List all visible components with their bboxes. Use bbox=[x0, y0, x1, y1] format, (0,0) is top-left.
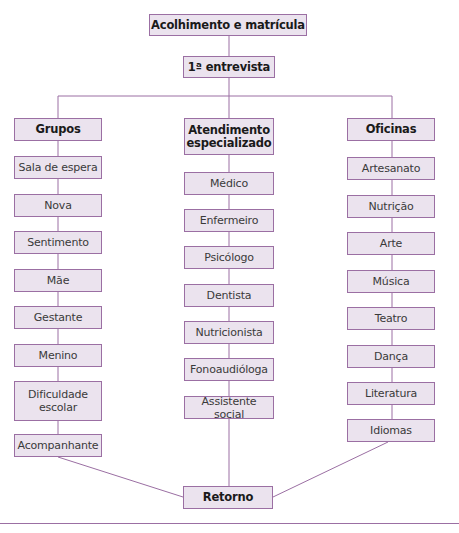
node-literatura: Literatura bbox=[347, 382, 435, 405]
node-nutricao: Nutrição bbox=[347, 195, 435, 218]
node-sentimento: Sentimento bbox=[14, 231, 102, 254]
node-first-interview: 1ª entrevista bbox=[183, 56, 275, 78]
node-mae: Mãe bbox=[14, 269, 102, 292]
node-musica: Música bbox=[347, 270, 435, 293]
node-dentista: Dentista bbox=[184, 284, 274, 307]
column-header-atendimento: Atendimento especializado bbox=[184, 118, 274, 155]
node-nutricionista: Nutricionista bbox=[184, 321, 274, 344]
node-acolhimento: Acolhimento e matrícula bbox=[149, 14, 307, 36]
node-retorno: Retorno bbox=[183, 486, 273, 509]
node-sala-de-espera: Sala de espera bbox=[14, 156, 102, 179]
node-teatro: Teatro bbox=[347, 307, 435, 330]
node-menino: Menino bbox=[14, 344, 102, 367]
node-danca: Dança bbox=[347, 345, 435, 368]
node-fonoaudiologa: Fonoaudióloga bbox=[184, 358, 274, 381]
node-enfermeiro: Enfermeiro bbox=[184, 209, 274, 232]
node-psicologo: Psicólogo bbox=[184, 246, 274, 269]
node-medico: Médico bbox=[184, 172, 274, 195]
footer-divider bbox=[0, 523, 459, 524]
node-artesanato: Artesanato bbox=[347, 157, 435, 180]
node-gestante: Gestante bbox=[14, 306, 102, 329]
node-dificuldade-escolar: Dificuldade escolar bbox=[14, 381, 102, 421]
node-acompanhante: Acompanhante bbox=[14, 434, 102, 457]
node-idiomas: Idiomas bbox=[347, 419, 435, 442]
column-header-oficinas: Oficinas bbox=[347, 118, 435, 141]
node-arte: Arte bbox=[347, 232, 435, 255]
column-header-grupos: Grupos bbox=[14, 118, 102, 141]
node-assistente-social: Assistente social bbox=[184, 396, 274, 419]
node-nova: Nova bbox=[14, 194, 102, 217]
